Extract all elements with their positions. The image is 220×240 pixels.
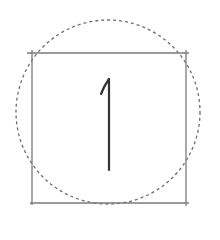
numeral-one-glyph <box>101 79 109 170</box>
numeral-flag <box>101 79 109 94</box>
